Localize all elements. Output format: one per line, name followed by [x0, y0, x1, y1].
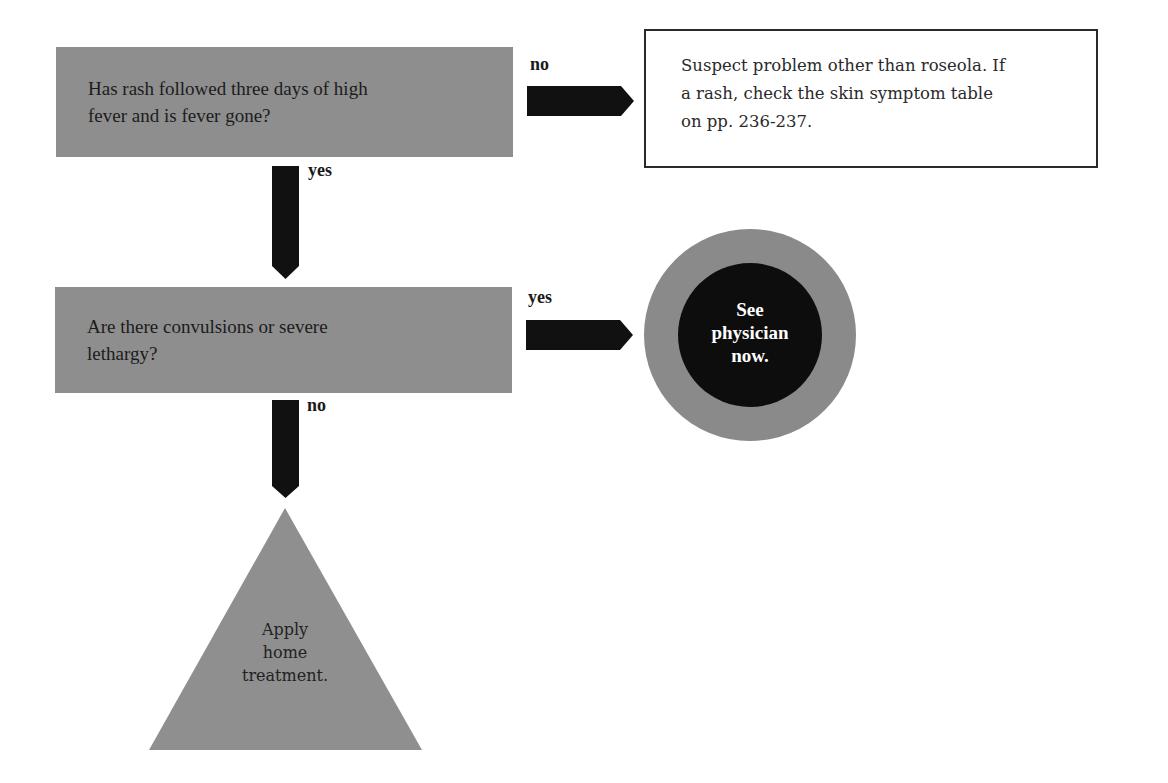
question-2-line1: Are there convulsions or severe [87, 313, 447, 340]
arrow-right-icon [527, 86, 635, 116]
question-box-1: Has rash followed three days of high fev… [56, 47, 513, 157]
question-2-text: Are there convulsions or severe lethargy… [87, 313, 447, 367]
branch-1-no-label: no [530, 54, 549, 75]
arrow-right-icon [526, 320, 634, 350]
branch-2-no-label: no [307, 395, 326, 416]
question-1-line2: fever and is fever gone? [88, 102, 448, 129]
result-box-other-problem: Suspect problem other than roseola. If a… [644, 29, 1098, 168]
arrow-down-icon [272, 166, 299, 280]
see-physician-line3: now. [680, 344, 820, 367]
home-treatment-line2: home [215, 641, 355, 664]
result-other-line2: a rash, check the skin symptom table [681, 80, 1096, 108]
question-2-line2: lethargy? [87, 340, 447, 367]
question-1-line1: Has rash followed three days of high [88, 75, 448, 102]
arrow-down-icon [272, 400, 299, 499]
home-treatment-line1: Apply [215, 618, 355, 641]
question-box-2: Are there convulsions or severe lethargy… [55, 287, 512, 393]
branch-1-yes-label: yes [308, 160, 332, 181]
see-physician-line2: physician [680, 321, 820, 344]
question-1-text: Has rash followed three days of high fev… [88, 75, 448, 129]
branch-2-yes-label: yes [528, 287, 552, 308]
result-see-physician: See physician now. [680, 298, 820, 367]
result-other-line1: Suspect problem other than roseola. If [681, 52, 1096, 80]
see-physician-line1: See [680, 298, 820, 321]
home-treatment-line3: treatment. [215, 664, 355, 687]
result-home-treatment: Apply home treatment. [215, 618, 355, 687]
result-other-line3: on pp. 236-237. [681, 108, 1096, 136]
